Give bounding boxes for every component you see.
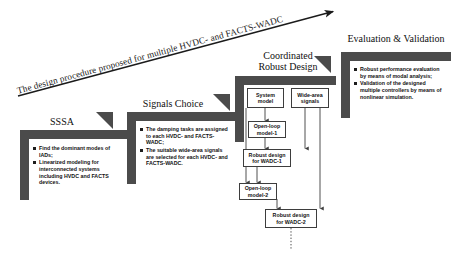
flow-box-robust-design-wadc-2[interactable]: Robust design for WADC-2 xyxy=(265,209,317,228)
flow-box-open-loop-model-1[interactable]: Open-loop model-1 xyxy=(248,121,286,138)
flow-box-open-loop-model-2-line2: model-2 xyxy=(244,192,272,198)
flow-box-open-loop-model-1-line2: model-1 xyxy=(253,130,281,136)
flow-box-robust-design-wadc-2-line1: Robust design xyxy=(272,212,311,218)
flowchart-connectors xyxy=(0,0,458,257)
flow-box-robust-design-wadc-1[interactable]: Robust design for WADC-1 xyxy=(243,149,291,167)
flow-box-open-loop-model-2-line1: Open-loop xyxy=(244,185,272,191)
flow-box-robust-design-wadc-2-line2: for WADC-2 xyxy=(272,219,311,225)
flow-box-open-loop-model-1-line1: Open-loop xyxy=(253,123,281,129)
figure-canvas: The design procedure proposed for multip… xyxy=(0,0,458,257)
flow-box-system-model[interactable]: System model xyxy=(247,88,284,108)
flow-box-system-model-line2: model xyxy=(255,98,276,104)
flow-box-robust-design-wadc-1-line2: for WADC-1 xyxy=(248,158,287,164)
flow-box-wide-area-signals-line2: signals xyxy=(296,98,323,104)
flow-box-open-loop-model-2[interactable]: Open-loop model-2 xyxy=(239,183,277,200)
flow-box-wide-area-signals[interactable]: Wide-area signals xyxy=(291,88,329,108)
